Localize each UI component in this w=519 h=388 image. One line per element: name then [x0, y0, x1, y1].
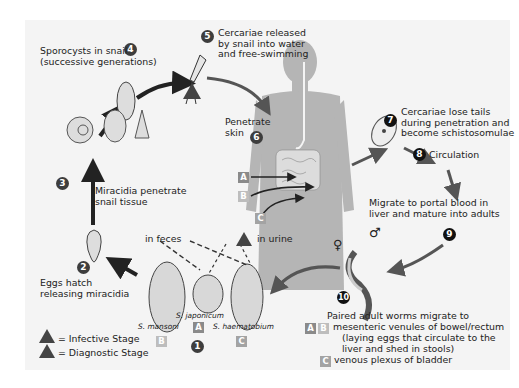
intestines-icon — [276, 150, 320, 190]
diagnostic-stage-icon — [236, 232, 252, 246]
body-code-c: C — [255, 213, 266, 224]
legend-infective-label: = Infective Stage — [58, 334, 139, 345]
step-10-ab-sub: (laying eggs that circulate to the liver… — [342, 333, 496, 354]
code-a-badge: A — [305, 323, 316, 334]
step-4-label: Sporocysts in snail (successive generati… — [40, 46, 157, 67]
body-code-a: A — [238, 172, 249, 183]
snails-icon — [67, 110, 149, 143]
step-10-badge: 10 — [337, 291, 350, 304]
step-6-label: Penetrate skin — [225, 117, 271, 138]
step-9-badge: 9 — [443, 228, 456, 241]
step-10-ab-text: mesenteric venules of bowel/rectum — [333, 322, 504, 333]
female-symbol: ♀ — [333, 240, 343, 251]
species-mansoni-label: S. mansoni — [138, 322, 179, 333]
species-haematobium-label: S. haematobium — [213, 322, 274, 333]
step-7-label: Cercariae lose tails during penetration … — [401, 107, 514, 139]
egg-japonicum-icon — [193, 275, 223, 313]
species-mansoni-code: B — [156, 336, 167, 347]
step-7-badge: 7 — [384, 114, 397, 127]
step-9-label: Migrate to portal blood in liver and mat… — [369, 198, 500, 219]
in-urine-label: in urine — [257, 234, 293, 245]
code-b-badge: B — [318, 323, 329, 334]
step-3-label: Miracidia penetrate snail tissue — [95, 186, 186, 207]
body-code-b: B — [238, 191, 249, 202]
step-3-badge: 3 — [56, 177, 69, 190]
step-2-label: Eggs hatch releasing miracidia — [40, 278, 129, 299]
egg-haematobium-icon — [231, 264, 263, 330]
species-haematobium-code: C — [236, 336, 247, 347]
species-japonicum-code: A — [193, 322, 204, 333]
step-1-badge: 1 — [191, 340, 204, 353]
step-8-label: Circulation — [429, 150, 479, 161]
step-5-badge: 5 — [201, 30, 214, 43]
step-5-label: Cercariae released by snail into water a… — [218, 28, 308, 60]
male-symbol: ♂ — [369, 228, 381, 239]
legend-infective-icon — [39, 329, 55, 343]
in-feces-label: in feces — [145, 234, 181, 245]
step-2-badge: 2 — [77, 261, 90, 274]
step-10-c-text: venous plexus of bladder — [334, 355, 452, 366]
miracidium-icon — [87, 230, 101, 262]
step-8-badge: 8 — [413, 148, 426, 161]
infective-stage-icon — [183, 83, 201, 99]
species-japonicum-label: S. japonicum — [176, 311, 224, 322]
legend-diagnostic-label: = Diagnostic Stage — [58, 348, 148, 359]
code-c-badge: C — [320, 356, 331, 367]
step-10-label: Paired adult worms migrate to — [327, 311, 469, 322]
legend-diagnostic-icon — [39, 344, 55, 358]
